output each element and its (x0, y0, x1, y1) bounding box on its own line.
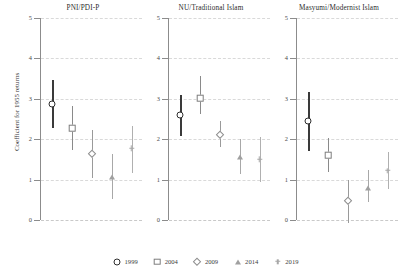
data-point-1999 (49, 100, 56, 107)
panel-1: PNI/PDI-P012345 (22, 18, 144, 240)
data-point-2019 (257, 157, 262, 162)
legend-item-2009[interactable]: 2009 (194, 258, 218, 265)
data-point-2019 (129, 146, 134, 151)
y-tick-label: 5 (20, 14, 32, 21)
plus-marker-icon (275, 259, 280, 264)
data-point-2009 (87, 150, 96, 159)
y-tick-label: 1 (276, 176, 288, 183)
y-tick-label: 1 (20, 176, 32, 183)
y-tick-label: 3 (276, 95, 288, 102)
plot-area (296, 18, 400, 240)
y-tick-label: 4 (276, 54, 288, 61)
panel-title: NU/Traditional Islam (150, 4, 272, 12)
legend-item-2014[interactable]: 2014 (234, 258, 258, 265)
data-point-2014 (109, 174, 115, 179)
legend-glyph (274, 258, 281, 265)
data-point-2004 (197, 95, 204, 102)
legend-glyph (114, 258, 121, 265)
y-tick-label: 2 (148, 135, 160, 142)
y-tick-label: 0 (148, 216, 160, 223)
plot-area (168, 18, 272, 240)
legend-label: 2004 (165, 258, 178, 265)
chart-legend: 19992004200920142019 (0, 258, 412, 265)
data-point-2004 (69, 125, 76, 132)
y-tick-label: 5 (148, 14, 160, 21)
y-tick-label: 4 (20, 54, 32, 61)
panel-2: NU/Traditional Islam012345 (150, 18, 272, 240)
legend-item-2019[interactable]: 2019 (274, 258, 298, 265)
circle-marker-icon (114, 258, 121, 265)
panel-title: PNI/PDI-P (22, 4, 144, 12)
y-tick-label: 4 (148, 54, 160, 61)
legend-item-2004[interactable]: 2004 (154, 258, 178, 265)
data-point-2014 (237, 155, 243, 160)
y-tick-label: 1 (148, 176, 160, 183)
y-tick-label: 3 (20, 95, 32, 102)
y-tick-label: 3 (148, 95, 160, 102)
panel-3: Masyumi/Modernist Islam012345 (278, 18, 400, 240)
data-point-1999 (305, 118, 312, 125)
panel-title: Masyumi/Modernist Islam (278, 4, 400, 12)
data-point-2004 (325, 152, 332, 159)
legend-glyph (154, 258, 161, 265)
legend-label: 1999 (125, 258, 138, 265)
legend-item-1999[interactable]: 1999 (114, 258, 138, 265)
triangle-marker-icon (235, 259, 241, 264)
y-tick-label: 2 (276, 135, 288, 142)
data-point-2009 (343, 197, 352, 206)
y-tick-label: 5 (276, 14, 288, 21)
legend-glyph (194, 258, 201, 265)
diamond-marker-icon (193, 257, 202, 266)
data-point-1999 (177, 112, 184, 119)
legend-label: 2019 (285, 258, 298, 265)
data-point-2019 (385, 168, 390, 173)
plot-area (40, 18, 144, 240)
legend-label: 2009 (205, 258, 218, 265)
data-point-2009 (215, 130, 224, 139)
y-tick-label: 0 (20, 216, 32, 223)
data-point-2014 (365, 185, 371, 190)
y-tick-label: 0 (276, 216, 288, 223)
coefficient-plot-figure: Coefficient for 1955 returns PNI/PDI-P01… (0, 0, 412, 280)
legend-glyph (234, 258, 241, 265)
square-marker-icon (154, 258, 161, 265)
y-tick-label: 2 (20, 135, 32, 142)
legend-label: 2014 (245, 258, 258, 265)
